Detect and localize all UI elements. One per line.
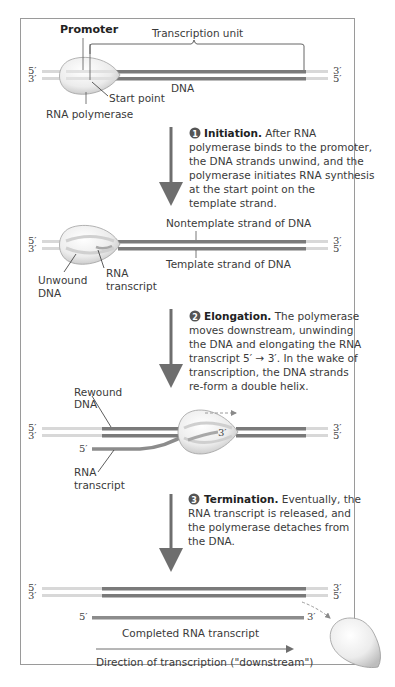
panel-termination: 5′ 3′ Completed RNA transcript Direction… xyxy=(28,582,342,668)
transcription-unit-bracket xyxy=(90,40,304,70)
svg-text:5′: 5′ xyxy=(333,590,342,601)
svg-text:the DNA strands unwind, and th: the DNA strands unwind, and the xyxy=(189,155,364,167)
svg-text:3: 3 xyxy=(191,496,197,505)
step-elongation: 2 Elongation. The polymerase moves downs… xyxy=(189,310,362,392)
step-title: Termination. xyxy=(204,493,278,505)
completed-rna-label: Completed RNA transcript xyxy=(122,627,259,639)
svg-text:DNA: DNA xyxy=(74,398,98,410)
svg-text:1: 1 xyxy=(192,130,198,139)
five-prime-label: 5′ xyxy=(333,73,342,84)
panel-initiation: Nontemplate strand of DNA Template stran… xyxy=(28,217,342,299)
direction-label: Direction of transcription ("downstream"… xyxy=(96,656,313,668)
svg-text:2: 2 xyxy=(192,313,198,322)
step-termination: 3 Termination. Eventually, the RNA trans… xyxy=(188,493,361,547)
svg-text:Initiation. After RNA: Initiation. After RNA xyxy=(204,127,317,139)
svg-text:5′: 5′ xyxy=(79,611,88,622)
svg-text:Elongation. The polymerase: Elongation. The polymerase xyxy=(204,310,359,322)
svg-text:transcript: transcript xyxy=(74,479,125,491)
dna-label: DNA xyxy=(171,82,195,94)
svg-text:3′: 3′ xyxy=(28,243,37,254)
transcription-diagram: Promoter Transcription unit DNA Start po… xyxy=(0,0,395,687)
panel-elongation: 3′ Rewound DNA 5′ RNA transcript 5′ 3′ 3… xyxy=(28,386,342,491)
svg-text:the DNA and elongating the RNA: the DNA and elongating the RNA xyxy=(189,338,362,350)
template-strand-label: Template strand of DNA xyxy=(165,258,292,270)
svg-text:the DNA.: the DNA. xyxy=(188,535,235,547)
start-point-label: Start point xyxy=(109,92,165,104)
svg-text:Termination. Eventually, the: Termination. Eventually, the xyxy=(204,493,361,505)
rna-polymerase-shape xyxy=(60,225,121,264)
svg-text:re-form a double helix.: re-form a double helix. xyxy=(189,380,309,392)
svg-text:5′: 5′ xyxy=(79,443,88,454)
svg-text:moves downstream, unwinding: moves downstream, unwinding xyxy=(189,324,353,336)
svg-text:5′: 5′ xyxy=(333,243,342,254)
svg-text:transcript 5′ → 3′. In the wak: transcript 5′ → 3′. In the wake of xyxy=(189,352,358,364)
rewound-dna-label: Rewound xyxy=(74,386,122,398)
step-initiation: 1 Initiation. After RNA polymerase binds… xyxy=(189,127,374,209)
svg-text:5′: 5′ xyxy=(333,430,342,441)
rna-transcript-label: RNA xyxy=(74,466,97,478)
panel-initial-dna: Promoter Transcription unit DNA Start po… xyxy=(28,23,342,120)
step-title: Initiation. xyxy=(204,127,262,139)
svg-text:template strand.: template strand. xyxy=(189,197,277,209)
three-prime-label: 3′ xyxy=(28,73,37,84)
unwound-dna-label: Unwound xyxy=(38,274,87,286)
promoter-label: Promoter xyxy=(60,23,119,36)
released-rna-polymerase xyxy=(330,618,380,668)
rna-polymerase-label: RNA polymerase xyxy=(46,108,133,120)
svg-text:the polymerase detaches from: the polymerase detaches from xyxy=(188,521,349,533)
svg-text:polymerase binds to the promot: polymerase binds to the promoter, xyxy=(189,141,372,153)
transcription-unit-label: Transcription unit xyxy=(151,27,243,39)
svg-text:3′: 3′ xyxy=(28,590,37,601)
svg-text:at the start point on the: at the start point on the xyxy=(189,183,315,195)
three-prime-inside-label: 3′ xyxy=(218,427,227,438)
svg-text:3′: 3′ xyxy=(307,611,316,622)
svg-text:RNA transcript is released, an: RNA transcript is released, and xyxy=(188,507,351,519)
svg-text:transcription, the DNA strands: transcription, the DNA strands xyxy=(189,366,349,378)
step-title: Elongation. xyxy=(204,310,271,322)
rna-transcript-label: RNA xyxy=(106,267,129,279)
rna-polymerase-shape xyxy=(178,410,238,454)
svg-text:transcript: transcript xyxy=(106,280,157,292)
svg-text:3′: 3′ xyxy=(28,430,37,441)
svg-text:DNA: DNA xyxy=(38,287,62,299)
svg-text:polymerase initiates RNA synth: polymerase initiates RNA synthesis xyxy=(189,169,374,181)
nontemplate-strand-label: Nontemplate strand of DNA xyxy=(166,217,312,229)
completed-rna-strand xyxy=(92,616,304,620)
